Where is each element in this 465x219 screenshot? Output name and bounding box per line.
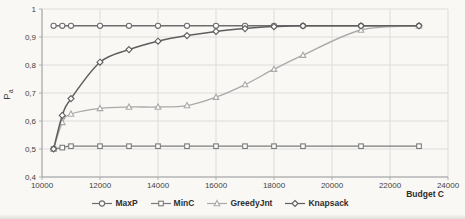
legend-marker-knapsack	[292, 200, 298, 206]
legend-marker-minc-icon	[151, 199, 171, 208]
x-tick-label: 22000	[379, 181, 402, 190]
series-line-greedyjnt	[54, 26, 419, 149]
legend-label-minc: MinC	[174, 198, 195, 208]
marker-maxp	[51, 23, 56, 28]
marker-minc	[185, 144, 190, 149]
legend: MaxPMinCGreedyJntKnapsack	[0, 198, 465, 208]
chart-canvas: 10,90,80,70,60,50,4100001200014000160001…	[0, 0, 465, 219]
legend-marker-maxp-icon	[92, 199, 112, 208]
marker-greedyjnt	[184, 103, 190, 108]
marker-minc	[98, 144, 103, 149]
marker-greedyjnt	[213, 94, 219, 99]
y-tick-label: 0,6	[25, 117, 37, 126]
marker-minc	[69, 144, 74, 149]
chart-svg: 10,90,80,70,60,50,4100001200014000160001…	[0, 0, 465, 219]
marker-greedyjnt	[155, 104, 161, 109]
marker-maxp	[126, 23, 131, 28]
x-tick-label: 18000	[263, 181, 286, 190]
marker-minc	[127, 144, 132, 149]
marker-minc	[272, 144, 277, 149]
marker-maxp	[97, 23, 102, 28]
y-tick-label: 0,5	[25, 145, 37, 154]
marker-greedyjnt	[242, 82, 248, 87]
marker-maxp	[60, 23, 65, 28]
marker-greedyjnt	[97, 105, 103, 110]
y-tick-label: 1	[32, 5, 37, 14]
y-axis-title: Pa	[1, 89, 14, 100]
legend-item-greedyjnt: GreedyJnt	[207, 198, 272, 208]
x-tick-label: 10000	[31, 181, 54, 190]
legend-marker-knapsack-icon	[285, 199, 305, 208]
legend-label-knapsack: Knapsack	[308, 198, 348, 208]
legend-marker-minc	[158, 201, 163, 206]
marker-minc	[156, 144, 161, 149]
legend-item-maxp: MaxP	[92, 198, 137, 208]
y-axis-title-main: P	[1, 93, 12, 100]
x-tick-label: 12000	[89, 181, 112, 190]
marker-minc	[417, 144, 422, 149]
marker-greedyjnt	[271, 66, 277, 71]
marker-maxp	[155, 23, 160, 28]
marker-maxp	[68, 23, 73, 28]
y-tick-label: 0,8	[25, 61, 37, 70]
marker-knapsack	[184, 33, 190, 39]
marker-minc	[243, 144, 248, 149]
legend-marker-maxp	[100, 200, 105, 205]
marker-minc	[60, 145, 65, 150]
marker-knapsack	[213, 28, 219, 34]
marker-minc	[214, 144, 219, 149]
legend-item-minc: MinC	[151, 198, 195, 208]
marker-maxp	[213, 23, 218, 28]
x-tick-label: 14000	[147, 181, 170, 190]
marker-minc	[301, 144, 306, 149]
legend-marker-greedyjnt	[215, 200, 221, 205]
legend-item-knapsack: Knapsack	[285, 198, 348, 208]
y-tick-label: 0,9	[25, 33, 37, 42]
x-tick-label: 16000	[205, 181, 228, 190]
marker-greedyjnt	[300, 52, 306, 57]
marker-knapsack	[126, 47, 132, 53]
legend-marker-greedyjnt-icon	[207, 199, 227, 208]
y-tick-label: 0,7	[25, 89, 37, 98]
marker-greedyjnt	[126, 104, 132, 109]
marker-minc	[359, 144, 364, 149]
marker-greedyjnt	[68, 111, 74, 116]
chart-figure: 10,90,80,70,60,50,4100001200014000160001…	[0, 0, 465, 219]
legend-label-maxp: MaxP	[115, 198, 137, 208]
legend-label-greedyjnt: GreedyJnt	[230, 198, 272, 208]
marker-maxp	[184, 23, 189, 28]
x-tick-label: 20000	[321, 181, 344, 190]
marker-knapsack	[155, 38, 161, 44]
y-axis-title-sub: a	[7, 89, 14, 93]
series-line-knapsack	[54, 26, 419, 149]
